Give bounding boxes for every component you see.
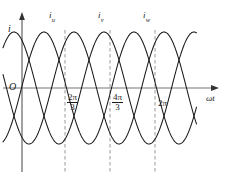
three-phase-current-waveform-figure: i O ωt iu iv iw 2π 3 4π 3 2π [0, 0, 233, 178]
curve-label-iw: iw [143, 11, 150, 22]
x-axis-arrowhead [211, 85, 219, 91]
waveform-plot [0, 0, 233, 178]
origin-label: O [9, 82, 16, 92]
fraction-4pi-3: 4π 3 [112, 93, 123, 113]
curve-label-iv: iv [98, 11, 103, 22]
curve-label-iu: iu [49, 11, 55, 22]
curve-label-iu-subscript: u [52, 16, 55, 23]
tick-label-2pi-over-3: 2π 3 [67, 93, 78, 113]
y-axis-arrowhead [19, 12, 25, 20]
fraction-denominator: 3 [112, 103, 123, 112]
fraction-2pi-3: 2π 3 [67, 93, 78, 113]
curve-label-iw-subscript: w [146, 16, 150, 23]
x-axis-label: ωt [206, 94, 215, 103]
tick-label-2pi: 2π [158, 99, 167, 108]
y-axis-label: i [8, 24, 11, 34]
tick-label-2pi-text: 2π [158, 99, 167, 108]
curve-label-iv-subscript: v [101, 16, 104, 23]
fraction-denominator: 3 [67, 103, 78, 112]
tick-label-4pi-over-3: 4π 3 [112, 93, 123, 113]
